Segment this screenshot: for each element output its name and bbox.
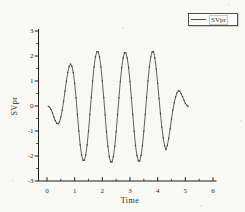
data-point-marker	[118, 97, 120, 99]
data-point-marker	[77, 114, 79, 116]
data-point-marker	[100, 66, 102, 68]
data-point-marker	[174, 102, 176, 104]
data-point-marker	[147, 80, 149, 82]
x-tick-label: 3	[128, 187, 132, 195]
data-point-marker	[168, 138, 170, 140]
data-point-marker	[113, 156, 115, 158]
data-point-marker	[78, 130, 80, 132]
data-point-marker	[67, 72, 69, 74]
data-point-marker	[122, 57, 124, 59]
x-axis-title: Time	[98, 196, 162, 205]
data-point-marker	[59, 121, 61, 123]
data-point-marker	[56, 123, 58, 125]
data-point-marker	[63, 101, 65, 103]
y-tick-label: 3	[30, 27, 34, 35]
data-point-marker	[135, 145, 137, 147]
data-point-marker	[107, 146, 109, 148]
data-point-marker	[91, 97, 93, 99]
data-point-marker	[146, 97, 148, 99]
data-point-marker	[70, 63, 72, 65]
data-point-marker	[140, 155, 142, 157]
data-point-marker	[162, 137, 164, 139]
data-point-marker	[48, 106, 50, 108]
data-point-marker	[179, 91, 181, 93]
data-point-marker	[149, 66, 151, 68]
y-tick-label: 1	[30, 77, 34, 85]
data-point-marker	[79, 144, 81, 146]
data-point-marker	[121, 67, 123, 69]
data-point-marker	[161, 126, 163, 128]
data-point-marker	[102, 80, 104, 82]
data-point-marker	[95, 56, 97, 58]
data-point-marker	[52, 112, 54, 114]
data-point-marker	[164, 145, 166, 147]
data-point-marker	[167, 145, 169, 147]
data-point-marker	[92, 80, 94, 82]
legend-label: SVpr	[209, 15, 228, 25]
data-point-marker	[132, 114, 134, 116]
data-point-marker	[53, 117, 55, 119]
data-point-marker	[129, 81, 131, 83]
data-point-marker	[104, 114, 106, 116]
data-point-marker	[93, 66, 95, 68]
data-point-marker	[157, 83, 159, 85]
y-tick-label: 2	[30, 52, 34, 60]
data-point-marker	[136, 155, 138, 157]
data-point-marker	[153, 51, 155, 53]
data-point-marker	[103, 97, 105, 99]
data-point-marker	[84, 160, 86, 162]
x-tick-label: 1	[73, 187, 77, 195]
x-tick-label: 4	[156, 187, 160, 195]
data-point-marker	[165, 149, 167, 151]
data-point-marker	[131, 97, 133, 99]
data-point-marker	[125, 52, 127, 54]
data-point-marker	[71, 65, 73, 67]
data-point-marker	[175, 96, 177, 98]
data-point-marker	[182, 96, 184, 98]
data-point-marker	[99, 56, 101, 58]
data-point-marker	[89, 114, 91, 116]
data-point-marker	[60, 117, 62, 119]
data-point-marker	[81, 154, 83, 156]
data-point-marker	[124, 52, 126, 54]
data-point-marker	[187, 106, 189, 108]
data-point-marker	[106, 131, 108, 133]
data-point-marker	[180, 93, 182, 95]
y-tick-label: 0	[30, 102, 34, 110]
x-tick-label: 5	[184, 187, 188, 195]
data-point-marker	[96, 51, 98, 53]
plot-canvas: 3210-1-2-30123456	[0, 0, 245, 212]
data-point-marker	[178, 90, 180, 92]
data-point-marker	[66, 81, 68, 83]
data-point-marker	[68, 66, 70, 68]
data-point-marker	[50, 109, 52, 111]
x-tick-label: 0	[45, 187, 49, 195]
data-point-marker	[142, 145, 144, 147]
data-point-marker	[115, 131, 117, 133]
data-point-marker	[61, 110, 63, 112]
data-point-marker	[111, 161, 113, 163]
data-point-marker	[160, 113, 162, 115]
y-tick-label: -3	[28, 177, 34, 185]
data-point-marker	[86, 144, 88, 146]
legend: SVpr	[188, 13, 238, 26]
data-point-marker	[126, 57, 128, 59]
data-point-marker	[144, 114, 146, 116]
y-tick-label: -2	[28, 152, 34, 160]
data-point-marker	[171, 118, 173, 120]
data-point-marker	[133, 131, 135, 133]
data-point-marker	[73, 72, 75, 74]
x-tick-label: 6	[211, 187, 215, 195]
data-point-marker	[158, 98, 160, 100]
data-point-marker	[75, 97, 77, 99]
data-point-marker	[150, 56, 152, 58]
data-point-marker	[120, 81, 122, 83]
data-point-marker	[176, 92, 178, 94]
data-point-marker	[138, 160, 140, 162]
data-point-marker	[172, 109, 174, 111]
data-point-marker	[88, 130, 90, 132]
data-point-marker	[74, 83, 76, 85]
data-point-marker	[55, 120, 57, 122]
data-point-marker	[156, 68, 158, 70]
data-point-marker	[185, 103, 187, 105]
